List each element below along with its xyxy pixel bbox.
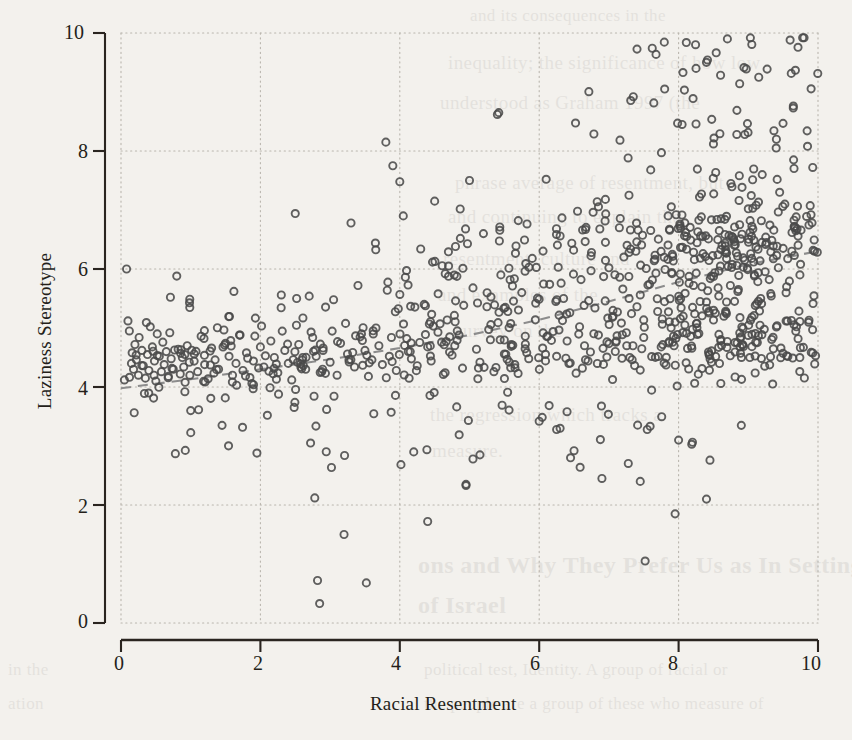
data-points (121, 34, 822, 607)
y-tick-label: 6 (78, 258, 88, 281)
y-tick-label: 2 (78, 495, 88, 518)
x-tick-label: 6 (530, 652, 540, 675)
y-tick-label: 8 (78, 140, 88, 163)
scatter-plot-figure: and its consequences in the inequality; … (0, 0, 852, 740)
x-axis-title: Racial Resentment (370, 693, 516, 715)
y-tick-label: 10 (64, 21, 84, 44)
y-axis-title: Laziness Stereotype (34, 231, 56, 431)
plot-canvas (0, 0, 852, 740)
x-tick-label: 0 (114, 652, 124, 675)
x-tick-label: 10 (801, 652, 821, 675)
x-tick-label: 8 (668, 652, 678, 675)
y-tick-label: 0 (78, 610, 88, 633)
x-tick-label: 2 (253, 652, 263, 675)
y-tick-label: 4 (78, 377, 88, 400)
x-tick-label: 4 (391, 652, 401, 675)
